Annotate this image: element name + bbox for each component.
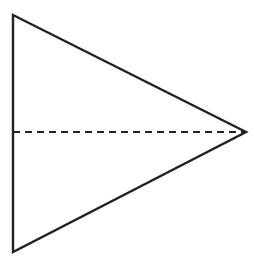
isosceles-triangle (13, 15, 246, 252)
triangle-diagram (0, 0, 255, 266)
